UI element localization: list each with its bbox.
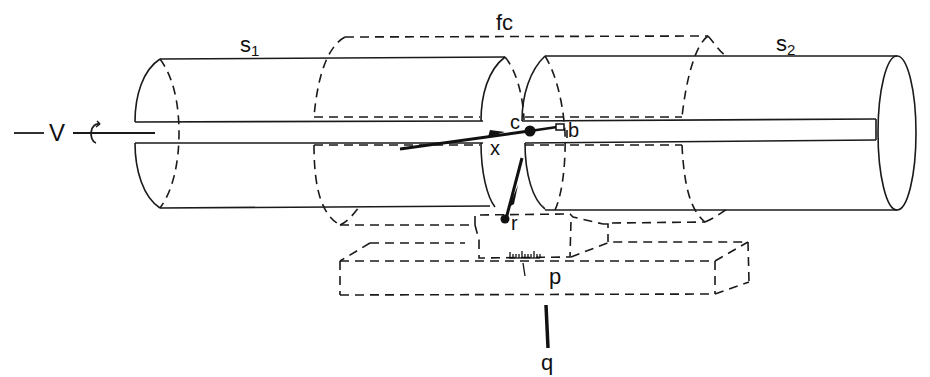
cylinder-fc <box>314 36 727 225</box>
cylinder-s1 <box>135 57 524 208</box>
axis-v <box>14 121 155 143</box>
label-v: V <box>49 121 65 145</box>
label-x: x <box>490 138 500 158</box>
label-q: q <box>541 352 553 374</box>
scale-ticks <box>509 251 540 276</box>
label-s1-base: s <box>240 32 251 57</box>
label-c: c <box>510 112 520 132</box>
label-s1: s1 <box>240 34 259 58</box>
label-s2-sub: 2 <box>787 41 795 58</box>
label-fc: fc <box>496 12 513 34</box>
plate-p <box>340 214 749 295</box>
point-b <box>556 124 564 130</box>
cylinder-s2 <box>522 56 916 210</box>
label-b: b <box>568 120 579 140</box>
label-p: p <box>549 266 561 288</box>
label-s2-base: s <box>776 31 787 56</box>
label-s2: s2 <box>776 33 795 57</box>
label-s1-sub: 1 <box>251 42 259 59</box>
label-r: r <box>511 213 518 233</box>
bar-q <box>546 305 548 348</box>
